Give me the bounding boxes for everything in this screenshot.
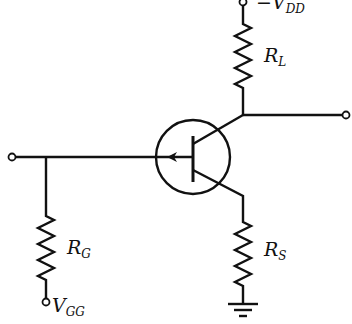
- resistor-rg: [38, 157, 54, 298]
- circuit-schematic: [0, 0, 352, 324]
- vdd-label: −VDD: [256, 0, 305, 15]
- vgg-terminal[interactable]: [43, 299, 50, 306]
- rs-label: RS: [264, 240, 287, 262]
- vgg-label: VGG: [52, 296, 85, 318]
- rl-label: RL: [264, 46, 286, 68]
- rg-label: RG: [67, 238, 91, 260]
- resistor-rs: [235, 218, 251, 303]
- resistor-rl: [235, 6, 251, 115]
- ground-icon: [228, 304, 258, 316]
- input-terminal[interactable]: [9, 154, 16, 161]
- output-terminal[interactable]: [343, 112, 350, 119]
- vdd-terminal: [240, 0, 247, 6]
